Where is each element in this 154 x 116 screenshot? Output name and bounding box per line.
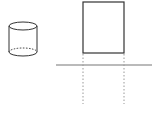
front-view-rectangle [83, 2, 124, 53]
projection-diagram [0, 0, 154, 116]
diagram-canvas [0, 0, 154, 116]
cylinder-bottom-hidden-arc [9, 48, 37, 52]
cylinder-figure [9, 22, 37, 56]
cylinder-bottom-front-arc [9, 52, 37, 56]
cylinder-top-ellipse [9, 22, 37, 30]
